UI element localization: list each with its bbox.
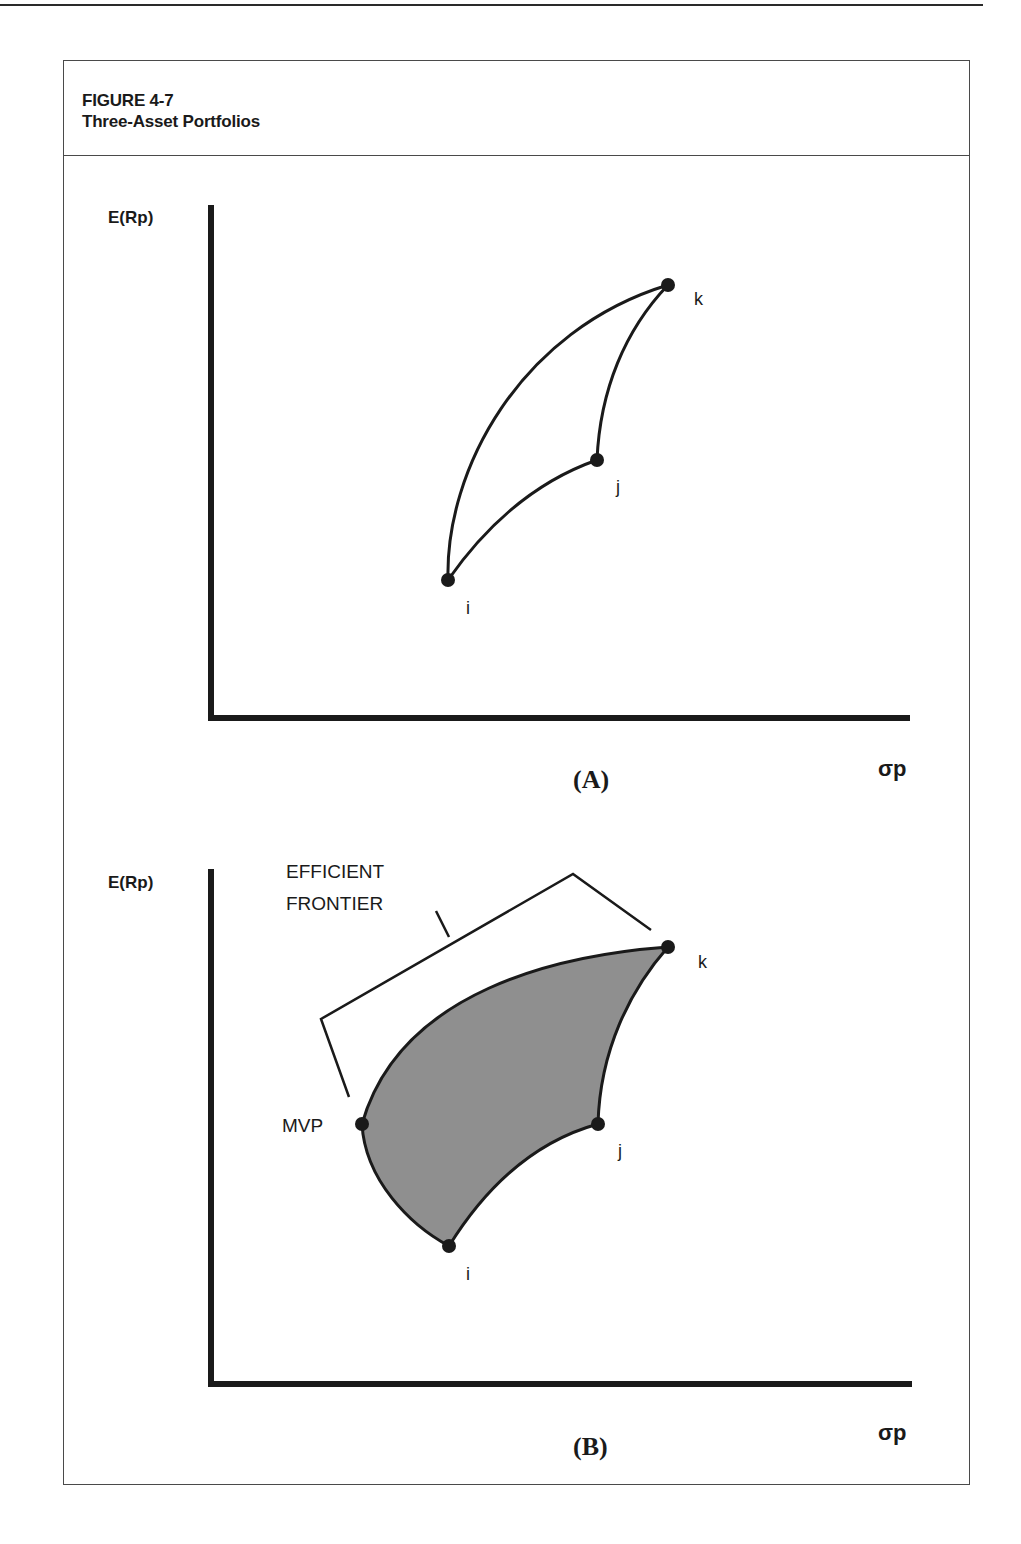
- panel-b-label-k: k: [698, 952, 708, 972]
- panel-b-point-i: [442, 1239, 456, 1253]
- panel-a-label-j: j: [615, 477, 620, 497]
- panel-b-feasible-set: [362, 947, 668, 1246]
- panel-b: E(Rp) EFFICIENT FRONTIER MVP i j k σp (B…: [108, 861, 912, 1461]
- panel-a-label-k: k: [694, 289, 704, 309]
- panel-a-caption: (A): [573, 765, 609, 794]
- panel-b-label-j: j: [617, 1141, 622, 1161]
- panel-b-point-mvp: [355, 1117, 369, 1131]
- panel-a-curve-i-j: [448, 460, 597, 580]
- efficient-frontier-label-line2: FRONTIER: [286, 893, 383, 914]
- panel-a: E(Rp) i j k σp (A): [108, 205, 910, 794]
- panel-b-label-mvp: MVP: [282, 1115, 323, 1136]
- panel-a-point-i: [441, 573, 455, 587]
- figure-charts: E(Rp) i j k σp (A) E(Rp) EFFICIENT FRONT…: [0, 0, 1021, 1544]
- panel-b-y-axis-label: E(Rp): [108, 873, 153, 892]
- panel-b-caption: (B): [573, 1432, 608, 1461]
- panel-b-point-k: [661, 940, 675, 954]
- panel-a-point-k: [661, 278, 675, 292]
- panel-b-label-i: i: [466, 1264, 470, 1284]
- panel-b-point-j: [591, 1117, 605, 1131]
- panel-a-label-i: i: [466, 598, 470, 618]
- efficient-frontier-label-line1: EFFICIENT: [286, 861, 385, 882]
- efficient-frontier-pointer: [436, 911, 449, 937]
- panel-a-y-axis-label: E(Rp): [108, 208, 153, 227]
- panel-b-x-axis-label: σp: [878, 1420, 907, 1445]
- panel-a-x-axis-label: σp: [878, 756, 907, 781]
- panel-a-point-j: [590, 453, 604, 467]
